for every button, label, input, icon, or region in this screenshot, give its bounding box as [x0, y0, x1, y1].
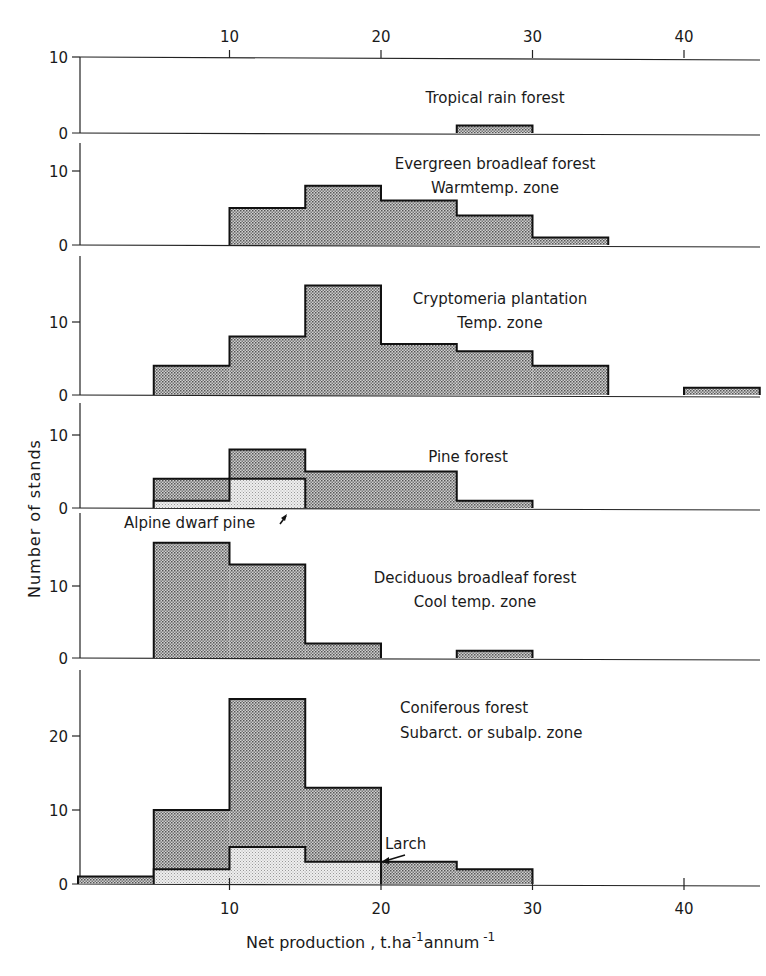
bottom-x-tick-label: 40 [674, 900, 693, 918]
panel-coniferous: 01020Coniferous forestSubarct. or subalp… [49, 670, 760, 894]
y-tick-label: 0 [58, 650, 68, 668]
y-tick-label: 10 [49, 49, 68, 67]
panel-evergreen: 010Evergreen broadleaf forestWarmtemp. z… [49, 143, 760, 255]
panel-label: Pine forest [428, 448, 508, 466]
histogram-bar [457, 869, 533, 884]
histogram-bar [154, 869, 230, 884]
histogram-bar [684, 388, 760, 395]
panel-label: Subarct. or subalp. zone [400, 724, 582, 742]
histogram-chart: 10203040 010Tropical rain forest010Everg… [0, 0, 766, 976]
y-tick-label: 0 [58, 125, 68, 143]
y-tick-label: 10 [49, 314, 68, 332]
panel-tropical: 010Tropical rain forest [49, 49, 760, 143]
y-tick-label: 0 [58, 237, 68, 255]
panel-pine: 010Pine forestAlpine dwarf pine [49, 403, 760, 532]
histogram-bar [230, 479, 306, 508]
x-axis-label: Net production , t.ha-1annum -1 [246, 930, 495, 952]
histogram-bar [533, 238, 609, 245]
histogram-bar [78, 877, 154, 884]
histogram-bar [230, 564, 306, 658]
histogram-bar [305, 186, 381, 245]
histogram-bar [305, 862, 381, 884]
top-x-tick-label: 30 [523, 28, 542, 46]
histogram-bar [154, 543, 230, 658]
histogram-bar [457, 351, 533, 395]
histogram-panels: 010Tropical rain forest010Evergreen broa… [49, 49, 760, 894]
histogram-bar [457, 215, 533, 245]
bottom-x-tick-label: 20 [371, 900, 390, 918]
histogram-bar [533, 366, 609, 395]
panel-label: Temp. zone [456, 314, 542, 332]
panel-deciduous: 010Deciduous broadleaf forestCool temp. … [49, 513, 760, 668]
panel-cryptomeria: 010Cryptomeria plantationTemp. zone [49, 256, 760, 405]
histogram-bar [305, 644, 381, 658]
y-tick-label: 0 [58, 387, 68, 405]
histogram-bar [230, 208, 306, 245]
panel-label: Coniferous forest [400, 699, 528, 717]
panel-label: Evergreen broadleaf forest [395, 155, 596, 173]
panel-label: Deciduous broadleaf forest [374, 569, 577, 587]
series-tropical-rain-forest [457, 125, 533, 133]
histogram-bar [230, 337, 306, 395]
y-axis-label: Number of stands [25, 439, 44, 598]
panel-label: Tropical rain forest [424, 89, 564, 107]
y-tick-label: 10 [49, 163, 68, 181]
histogram-bar [230, 847, 306, 884]
histogram-bar [154, 501, 230, 508]
top-x-tick-label: 10 [220, 28, 239, 46]
histogram-bar [457, 125, 533, 133]
top-x-axis: 10203040 [80, 28, 760, 60]
panel-label: Cool temp. zone [414, 593, 536, 611]
top-x-tick-label: 20 [371, 28, 390, 46]
bottom-x-tick-label: 10 [220, 900, 239, 918]
panel-label: Cryptomeria plantation [413, 290, 587, 308]
top-x-tick-label: 40 [674, 28, 693, 46]
y-tick-label: 10 [49, 578, 68, 596]
histogram-bar [457, 501, 533, 508]
annotation-alpine-dwarf-pine: Alpine dwarf pine [124, 514, 255, 532]
bottom-x-tick-label: 30 [523, 900, 542, 918]
histogram-bar [154, 366, 230, 395]
histogram-bar [381, 862, 457, 884]
annotation-larch: Larch [385, 835, 426, 853]
y-tick-label: 20 [49, 728, 68, 746]
histogram-bar [381, 201, 457, 245]
histogram-bar [381, 344, 457, 395]
y-tick-label: 10 [49, 427, 68, 445]
y-tick-label: 0 [58, 876, 68, 894]
histogram-bar [381, 472, 457, 509]
panel-label: Warmtemp. zone [431, 179, 559, 197]
y-tick-label: 0 [58, 500, 68, 518]
y-tick-label: 10 [49, 802, 68, 820]
histogram-bar [305, 472, 381, 509]
histogram-bar [305, 286, 381, 396]
histogram-bar [457, 651, 533, 658]
